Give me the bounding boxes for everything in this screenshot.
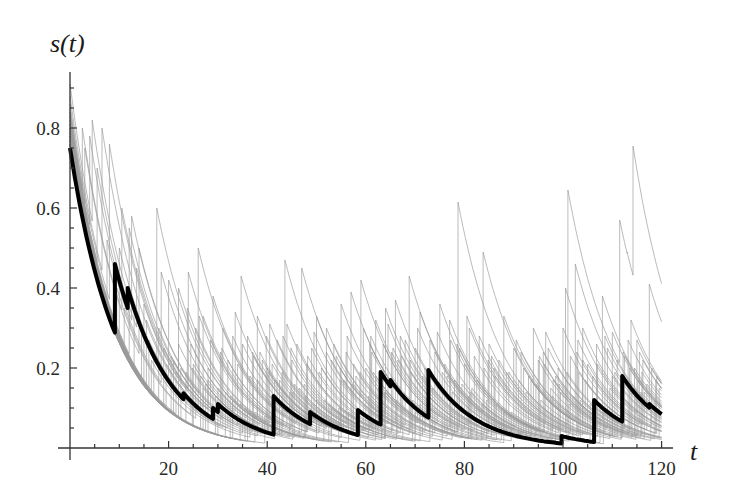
x-tick-label: 80 (455, 458, 474, 479)
x-tick-label: 100 (549, 458, 578, 479)
x-tick-label: 120 (647, 458, 676, 479)
background-series (70, 84, 662, 444)
x-tick-label: 60 (356, 458, 375, 479)
x-tick-label: 20 (159, 458, 178, 479)
y-tick-label: 0.4 (36, 278, 60, 299)
y-tick-label: 0.6 (36, 198, 60, 219)
x-axis-ticks (95, 441, 662, 448)
chart: 20406080100120 0.20.40.60.8 s(t) t (0, 0, 733, 501)
y-tick-label: 0.8 (36, 118, 60, 139)
x-tick-label: 40 (258, 458, 277, 479)
x-axis-label: t (690, 437, 698, 466)
plot-area (70, 84, 662, 444)
x-axis-tick-labels: 20406080100120 (159, 458, 676, 479)
y-tick-label: 0.2 (36, 358, 60, 379)
y-axis-label: s(t) (50, 29, 85, 58)
y-axis-tick-labels: 0.20.40.60.8 (36, 118, 60, 379)
